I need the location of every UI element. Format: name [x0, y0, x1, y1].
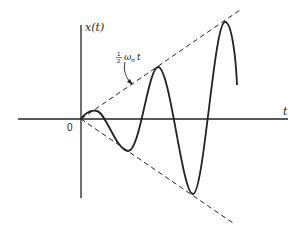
envelope-label: 1 2 ω n t: [116, 51, 141, 64]
y-axis-label: x(t): [85, 21, 104, 34]
origin-label: 0: [67, 122, 73, 133]
x-axis-label: t: [283, 105, 288, 118]
svg-text:1: 1: [117, 51, 121, 57]
resonance-diagram: x(t) t 0 1 2 ω n t: [0, 0, 302, 234]
response-curve: [81, 22, 237, 194]
svg-text:n: n: [131, 56, 135, 63]
svg-text:2: 2: [117, 58, 121, 64]
svg-text:t: t: [137, 52, 141, 62]
upper-envelope: [81, 10, 240, 119]
lower-envelope: [81, 119, 233, 223]
